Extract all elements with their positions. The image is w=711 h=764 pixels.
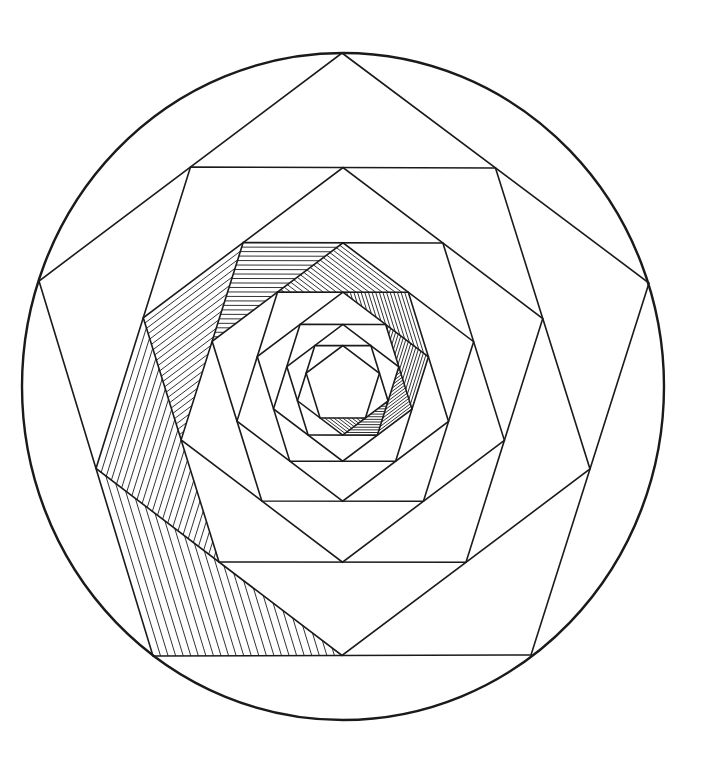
pentagon-spiral-artwork <box>0 0 711 764</box>
background <box>0 0 711 764</box>
